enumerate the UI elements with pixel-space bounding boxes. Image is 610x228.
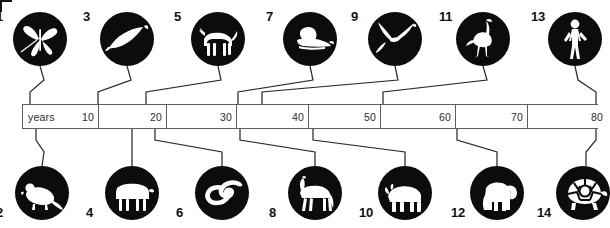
bar-segment-40: 40: [237, 105, 309, 128]
leader-3: [98, 66, 131, 104]
cat-icon[interactable]: [191, 12, 245, 66]
leader-6: [155, 128, 222, 166]
icon-number-10: 10: [359, 206, 373, 219]
sheep-icon[interactable]: [105, 166, 159, 220]
bar-segment-50: 50: [309, 105, 381, 128]
fish-icon[interactable]: [100, 12, 154, 66]
bar-segment-20: 20: [99, 105, 167, 128]
leader-5: [146, 66, 221, 104]
snake-icon[interactable]: [195, 166, 249, 220]
icon-node-9[interactable]: 9: [368, 12, 422, 66]
icon-node-12[interactable]: 12: [470, 166, 524, 220]
icon-number-6: 6: [176, 206, 183, 219]
axis-tick-40: 40: [292, 111, 304, 123]
ostrich-icon[interactable]: [456, 12, 510, 66]
leader-10: [313, 128, 405, 166]
axis-tick-20: 20: [150, 111, 162, 123]
icon-number-4: 4: [86, 206, 93, 219]
leader-13: [575, 66, 596, 104]
icon-node-10[interactable]: 10: [378, 166, 432, 220]
leader-7: [238, 66, 313, 104]
icon-number-9: 9: [351, 10, 358, 23]
leader-12: [457, 128, 497, 166]
tortoise-icon[interactable]: [556, 166, 610, 220]
axis-unit-label: years: [28, 111, 55, 123]
icon-node-6[interactable]: 6: [195, 166, 249, 220]
icon-node-14[interactable]: 14: [556, 166, 610, 220]
icon-number-5: 5: [174, 10, 181, 23]
leader-2: [36, 128, 44, 166]
icon-node-1[interactable]: 1: [13, 12, 67, 66]
icon-number-12: 12: [451, 206, 465, 219]
leader-1: [30, 66, 44, 104]
icon-node-13[interactable]: 13: [548, 12, 602, 66]
icon-node-7[interactable]: 7: [283, 12, 337, 66]
icon-number-8: 8: [269, 206, 276, 219]
icon-number-14: 14: [537, 206, 551, 219]
icon-number-1: 1: [0, 10, 3, 23]
seal-icon[interactable]: [283, 12, 337, 66]
axis-tick-60: 60: [439, 111, 451, 123]
bar-segment-30: 30: [167, 105, 237, 128]
axis-tick-50: 50: [364, 111, 376, 123]
butterfly-icon[interactable]: [13, 12, 67, 66]
axis-tick-30: 30: [220, 111, 232, 123]
horse-icon[interactable]: [288, 166, 342, 220]
bar-segment-80: 80: [528, 105, 601, 128]
icon-node-11[interactable]: 11: [456, 12, 510, 66]
leader-8: [240, 128, 315, 166]
icon-number-2: 2: [0, 206, 3, 219]
bird-icon[interactable]: [368, 12, 422, 66]
icon-number-11: 11: [439, 10, 452, 23]
icon-node-5[interactable]: 5: [191, 12, 245, 66]
icon-number-3: 3: [83, 10, 90, 23]
axis-tick-80: 80: [591, 111, 603, 123]
icon-node-2[interactable]: 2: [15, 166, 69, 220]
bar-segment-60: 60: [381, 105, 456, 128]
icon-number-13: 13: [531, 10, 545, 23]
mouse-icon[interactable]: [15, 166, 69, 220]
elephant-icon[interactable]: [470, 166, 524, 220]
icon-number-7: 7: [266, 10, 273, 23]
axis-tick-70: 70: [511, 111, 523, 123]
leader-11: [383, 66, 487, 104]
rhinoceros-icon[interactable]: [378, 166, 432, 220]
timeline-bar: years 10 20 30 40 50 60 70 80: [22, 104, 598, 129]
icon-node-8[interactable]: 8: [288, 166, 342, 220]
axis-tick-10: 10: [82, 111, 94, 123]
bar-segment-70: 70: [456, 105, 528, 128]
human-icon[interactable]: [548, 12, 602, 66]
leader-14: [586, 128, 596, 166]
icon-node-4[interactable]: 4: [105, 166, 159, 220]
icon-node-3[interactable]: 3: [100, 12, 154, 66]
bar-segment-years: years 10: [23, 105, 99, 128]
